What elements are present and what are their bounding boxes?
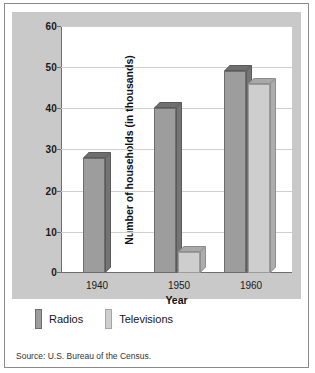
x-tick-label-1940: 1940	[86, 280, 108, 291]
x-axis-label: Year	[165, 294, 187, 306]
legend-item-radios[interactable]: Radios	[35, 309, 83, 329]
bar-side-face	[105, 152, 111, 273]
bar-face	[224, 71, 246, 273]
ytickmark-20	[57, 191, 61, 192]
bar-radios-1960[interactable]	[224, 71, 246, 273]
ytickmark-30	[57, 149, 61, 150]
gridline-60	[61, 26, 292, 27]
y-tick-label-50: 50	[45, 62, 57, 73]
chart-panel: Number of households (in thousands) 60 5…	[12, 12, 301, 299]
x-tick-label-1950: 1950	[168, 280, 190, 291]
ytickmark-60	[57, 26, 61, 27]
legend-label-televisions: Televisions	[119, 313, 173, 325]
legend-item-televisions[interactable]: Televisions	[105, 309, 173, 329]
legend-label-radios: Radios	[49, 313, 83, 325]
y-tick-label-40: 40	[45, 103, 57, 114]
plot-area: Number of households (in thousands) 60 5…	[61, 26, 292, 273]
bar-face	[83, 158, 105, 273]
chart-legend: Radios Televisions	[35, 309, 173, 329]
bar-face	[154, 108, 176, 273]
x-tick-label-1960: 1960	[240, 280, 262, 291]
gridline-50	[61, 67, 292, 68]
bar-face	[178, 252, 200, 273]
y-tick-label-0: 0	[51, 267, 57, 278]
bar-side-face	[200, 246, 206, 273]
y-tick-label-60: 60	[45, 21, 57, 32]
bar-side-face	[270, 78, 276, 273]
y-tick-label-10: 10	[45, 227, 57, 238]
ytickmark-10	[57, 232, 61, 233]
legend-swatch-radios-icon	[35, 309, 42, 329]
bar-radios-1950[interactable]	[154, 108, 176, 273]
ytickmark-40	[57, 108, 61, 109]
bar-televisions-1960[interactable]	[248, 84, 270, 273]
source-note: Source: U.S. Bureau of the Census.	[16, 351, 151, 361]
y-tick-label-20: 20	[45, 186, 57, 197]
chart-figure: Number of households (in thousands) 60 5…	[4, 3, 309, 368]
legend-swatch-televisions-icon	[105, 309, 112, 329]
y-tick-label-30: 30	[45, 144, 57, 155]
ytickmark-50	[57, 67, 61, 68]
bar-televisions-1950[interactable]	[178, 252, 200, 273]
bar-face	[248, 84, 270, 273]
ytickmark-0	[57, 272, 61, 273]
bar-radios-1940[interactable]	[83, 158, 105, 273]
